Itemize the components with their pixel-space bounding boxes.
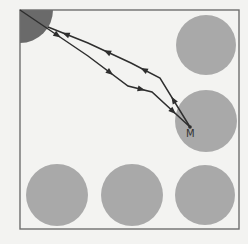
corner-region xyxy=(0,0,53,43)
outgoing-path xyxy=(20,10,190,127)
point-m-label: M xyxy=(186,129,195,139)
obstacle-circle-top-right xyxy=(176,15,236,75)
obstacle-circle-bottom-right xyxy=(175,165,235,225)
arrow-marker-icon xyxy=(102,48,111,57)
returning-path-line xyxy=(48,27,190,127)
arrow-marker-icon xyxy=(169,95,178,105)
obstacle-circle-bottom-middle xyxy=(101,164,163,226)
arrow-marker-icon xyxy=(139,65,148,74)
arrow-marker-icon xyxy=(61,30,70,38)
obstacle-circle-bottom-left xyxy=(26,164,88,226)
diagram-svg xyxy=(0,0,248,244)
paths-layer xyxy=(20,10,192,129)
shapes-layer xyxy=(0,0,237,226)
outgoing-path-line xyxy=(20,10,190,127)
diagram-canvas: M xyxy=(0,0,248,244)
returning-path xyxy=(48,27,190,127)
